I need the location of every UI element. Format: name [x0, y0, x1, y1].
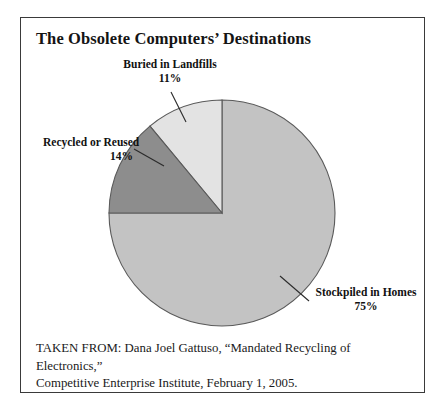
pie-label-line1: Stockpiled in — [316, 286, 380, 298]
pie-label-percent: 75% — [311, 300, 421, 314]
pie-chart-svg — [21, 18, 426, 394]
source-line-2: Competitive Enterprise Institute, Februa… — [36, 375, 418, 393]
pie-label-recycled-or-reused: Recycled or Reused 14% — [43, 136, 133, 163]
pie-label-line1: Recycled or — [43, 136, 101, 148]
source-line-1: TAKEN FROM: Dana Joel Gattuso, “Mandated… — [36, 340, 418, 375]
pie-label-percent: 14% — [43, 150, 133, 164]
pie-label-line2: Landfills — [173, 58, 217, 70]
pie-chart: Buried in Landfills 11% Recycled or Reus… — [21, 18, 426, 394]
pie-label-buried-in-landfills: Buried in Landfills 11% — [122, 58, 218, 85]
pie-label-stockpiled-in-homes: Stockpiled in Homes 75% — [311, 286, 421, 313]
pie-label-percent: 11% — [122, 72, 218, 86]
figure-frame: The Obsolete Computers’ Destinations Bur… — [20, 17, 425, 393]
source-citation: TAKEN FROM: Dana Joel Gattuso, “Mandated… — [36, 340, 418, 393]
pie-label-line2: Reused — [103, 136, 139, 148]
pie-label-line1: Buried in — [123, 58, 169, 70]
pie-label-line2: Homes — [383, 286, 417, 298]
